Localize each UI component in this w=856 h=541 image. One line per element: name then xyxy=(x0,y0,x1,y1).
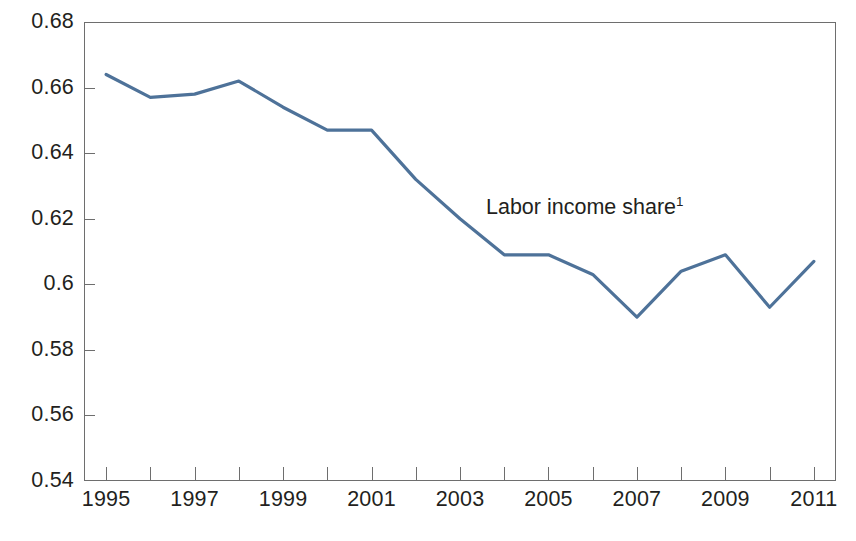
y-axis-tick-labels: 0.540.560.580.60.620.640.660.68 xyxy=(0,22,74,481)
x-axis-tick-label: 2001 xyxy=(347,489,396,511)
x-axis-tick-label: 2003 xyxy=(436,489,485,511)
y-axis-tick-label: 0.68 xyxy=(31,11,74,33)
y-axis-tick-label: 0.58 xyxy=(31,339,74,361)
y-axis-tick-label: 0.54 xyxy=(31,470,74,492)
y-axis-tick-label: 0.66 xyxy=(31,77,74,99)
x-axis-tick-label: 2007 xyxy=(613,489,662,511)
x-axis-tick-label: 1999 xyxy=(259,489,308,511)
series-plot xyxy=(84,22,836,481)
x-axis-tick-label: 2011 xyxy=(790,489,837,511)
series-annotation-footnote-marker: 1 xyxy=(676,194,683,209)
x-axis-tick-label: 2009 xyxy=(701,489,750,511)
y-axis-tick-label: 0.6 xyxy=(44,274,75,296)
series-annotation-label: Labor income share1 xyxy=(486,197,683,219)
y-axis-tick-label: 0.64 xyxy=(31,142,74,164)
series-line-labor-income-share xyxy=(106,74,814,317)
x-axis-tick-label: 1997 xyxy=(170,489,219,511)
y-axis-tick-label: 0.62 xyxy=(31,208,74,230)
x-axis-tick-label: 2005 xyxy=(524,489,573,511)
y-axis-tick-label: 0.56 xyxy=(31,405,74,427)
x-axis-tick-label: 1995 xyxy=(82,489,131,511)
x-axis-tick-labels: 199519971999200120032005200720092011 xyxy=(84,489,836,523)
series-annotation-text: Labor income share xyxy=(486,195,676,219)
chart-figure: 0.540.560.580.60.620.640.660.68 19951997… xyxy=(0,0,856,541)
